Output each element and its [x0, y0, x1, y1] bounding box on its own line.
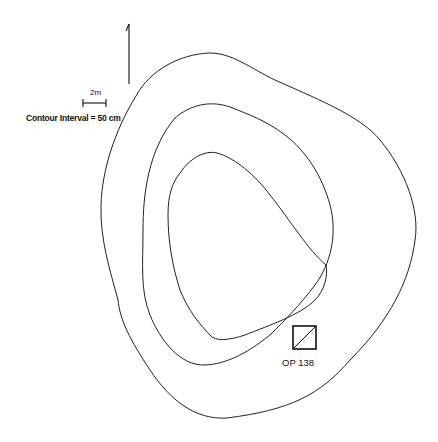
north-arrow-icon	[126, 24, 129, 84]
scale-bar-label: 2m	[90, 88, 101, 97]
contour-interval-label: Contour Interval = 50 cm	[26, 113, 121, 123]
contour-map	[0, 0, 438, 442]
scale-bar	[83, 99, 106, 107]
op-138-excavation-unit	[293, 326, 316, 349]
inner-contour	[168, 152, 327, 339]
outer-contour	[101, 53, 416, 418]
operation-label: OP 138	[282, 357, 314, 368]
